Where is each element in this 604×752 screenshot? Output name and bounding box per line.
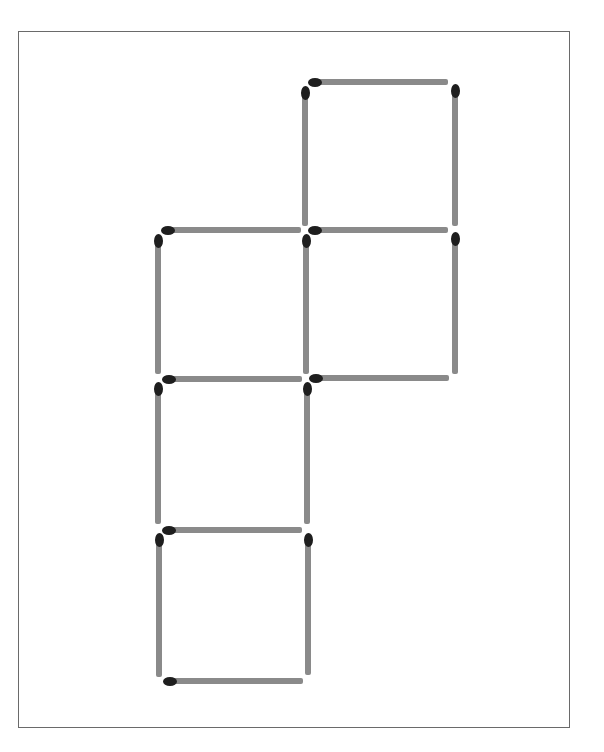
match-head-icon: [308, 226, 322, 235]
matchstick-row2-v-right[interactable]: [452, 236, 458, 374]
match-head-icon: [162, 526, 176, 535]
match-head-icon: [303, 382, 312, 396]
match-head-icon: [451, 84, 460, 98]
match-head-icon: [162, 375, 176, 384]
matchstick-row3-v-left[interactable]: [155, 386, 161, 524]
matchstick-bottom-h[interactable]: [167, 678, 303, 684]
matchstick-row2-v-left[interactable]: [155, 238, 161, 374]
matchstick-top-v-left[interactable]: [302, 90, 308, 226]
matchstick-top-h-1[interactable]: [312, 79, 448, 85]
match-head-icon: [451, 232, 460, 246]
matchstick-row3-v-mid[interactable]: [304, 386, 310, 524]
match-head-icon: [308, 78, 322, 87]
match-head-icon: [154, 382, 163, 396]
matchstick-top-v-right[interactable]: [452, 88, 458, 226]
match-head-icon: [304, 533, 313, 547]
match-head-icon: [154, 234, 163, 248]
match-head-icon: [309, 374, 323, 383]
matchstick-row4-v-right[interactable]: [305, 537, 311, 675]
matchstick-row4-v-left[interactable]: [156, 537, 162, 677]
match-head-icon: [302, 234, 311, 248]
matchstick-row2-v-mid[interactable]: [303, 238, 309, 374]
matchstick-row3-h-left[interactable]: [166, 376, 302, 382]
match-head-icon: [155, 533, 164, 547]
matchstick-row3-h-right[interactable]: [313, 375, 449, 381]
matchstick-row2-h-right[interactable]: [312, 227, 448, 233]
match-head-icon: [163, 677, 177, 686]
matchstick-row2-h-left[interactable]: [165, 227, 301, 233]
match-head-icon: [161, 226, 175, 235]
matchstick-row4-h[interactable]: [166, 527, 302, 533]
match-head-icon: [301, 86, 310, 100]
